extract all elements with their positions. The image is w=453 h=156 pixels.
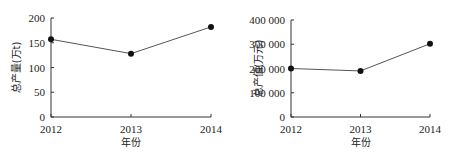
x-tick-label: 2012 bbox=[40, 123, 62, 135]
x-tick-label: 2014 bbox=[419, 123, 442, 135]
data-point bbox=[208, 24, 214, 30]
data-point bbox=[427, 41, 433, 47]
series-line bbox=[51, 27, 211, 54]
series-line bbox=[291, 44, 430, 71]
production-volume-chart: 050100150200201220132014年份总产量(万t) bbox=[10, 12, 223, 148]
x-tick-label: 2013 bbox=[350, 123, 373, 135]
y-tick-label: 150 bbox=[29, 37, 46, 49]
data-point bbox=[358, 68, 364, 74]
x-tick-label: 2013 bbox=[120, 123, 143, 135]
y-tick-label: 400 000 bbox=[249, 14, 285, 26]
y-axis-title: 总产值(万元) bbox=[252, 40, 264, 98]
production-value-chart: 0100 000200 000300 000400 00020122013201… bbox=[249, 14, 441, 148]
x-tick-label: 2014 bbox=[200, 123, 223, 135]
y-tick-label: 50 bbox=[34, 86, 46, 98]
x-axis-title: 年份 bbox=[351, 136, 371, 148]
y-tick-label: 0 bbox=[280, 111, 286, 123]
y-tick-label: 200 bbox=[29, 12, 46, 24]
data-point bbox=[128, 51, 134, 57]
y-tick-label: 100 bbox=[29, 62, 46, 74]
x-axis-title: 年份 bbox=[121, 136, 141, 148]
data-point bbox=[48, 36, 54, 42]
y-axis-title: 总产量(万t) bbox=[10, 42, 22, 94]
y-tick-label: 0 bbox=[40, 111, 46, 123]
chart-canvas: 050100150200201220132014年份总产量(万t) 0100 0… bbox=[0, 0, 453, 156]
x-tick-label: 2012 bbox=[280, 123, 302, 135]
data-point bbox=[288, 66, 294, 72]
